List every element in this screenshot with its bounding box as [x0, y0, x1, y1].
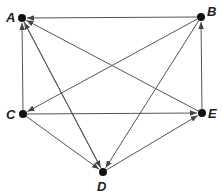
- node-label-e: E: [208, 106, 217, 121]
- edge-e-to-b: [201, 22, 202, 109]
- edge-b-to-d: [106, 20, 199, 167]
- graph-svg: ABCDE: [0, 0, 222, 196]
- nodes-group: ABCDE: [5, 4, 217, 194]
- node-c: [19, 110, 27, 118]
- node-a: [18, 14, 26, 22]
- edge-b-to-a: [27, 17, 197, 18]
- node-d: [99, 168, 107, 176]
- edge-c-to-a: [22, 23, 23, 110]
- node-label-a: A: [5, 10, 15, 25]
- node-b: [197, 13, 205, 21]
- node-label-c: C: [6, 107, 16, 122]
- edge-c-to-e: [27, 113, 197, 114]
- edges-group: [22, 17, 202, 170]
- node-label-b: B: [207, 4, 216, 19]
- directed-graph-diagram: ABCDE: [0, 0, 222, 196]
- edge-a-to-d: [24, 22, 101, 168]
- node-e: [198, 109, 206, 117]
- edge-d-to-e: [106, 116, 197, 170]
- node-label-d: D: [97, 179, 107, 194]
